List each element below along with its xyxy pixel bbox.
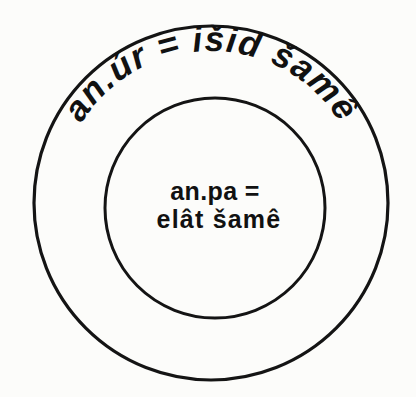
inner-circle-label-line-2: elât šamê (157, 205, 282, 233)
diagram-canvas: an.úr = išid šamê an.pa = elât šamê (0, 0, 416, 397)
inner-circle-label-line-1: an.pa = (170, 177, 260, 205)
concentric-circles-diagram: an.úr = išid šamê an.pa = elât šamê (0, 0, 416, 397)
